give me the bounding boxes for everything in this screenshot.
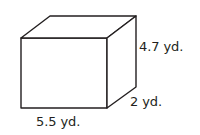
width-dimension-label: 5.5 yd. <box>36 115 80 128</box>
depth-dimension-label: 2 yd. <box>130 95 162 108</box>
prism-front-face <box>21 38 107 108</box>
rectangular-prism-figure: 4.7 yd. 2 yd. 5.5 yd. <box>0 0 200 135</box>
height-dimension-label: 4.7 yd. <box>139 40 183 53</box>
prism-drawing <box>0 0 200 135</box>
